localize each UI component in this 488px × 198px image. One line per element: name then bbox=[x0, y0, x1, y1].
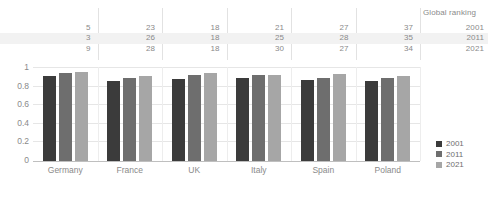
bar-spain-2021[interactable] bbox=[333, 74, 346, 161]
bar-italy-2001[interactable] bbox=[236, 78, 249, 161]
bar-group-italy bbox=[227, 67, 292, 161]
legend-label: 2011 bbox=[446, 150, 463, 159]
y-tick-label: 1 bbox=[7, 63, 33, 71]
bar-group-france bbox=[98, 67, 163, 161]
bar-group-bars bbox=[227, 67, 292, 161]
table-header-blank bbox=[162, 8, 227, 19]
legend-swatch-icon bbox=[436, 141, 442, 147]
bar-spain-2001[interactable] bbox=[301, 80, 314, 161]
global-ranking-table: Global ranking 5 23 18 21 27 37 2001 3 2… bbox=[0, 0, 488, 62]
rank-cell-germany: 5 bbox=[33, 23, 98, 34]
bar-poland-2001[interactable] bbox=[365, 81, 378, 161]
rank-cell-uk: 18 bbox=[162, 44, 227, 55]
legend-item-2021[interactable]: 2021 bbox=[436, 160, 486, 169]
rank-cell-france: 23 bbox=[98, 23, 163, 34]
rank-cell-italy: 25 bbox=[227, 33, 292, 44]
rank-cell-poland: 35 bbox=[356, 33, 421, 44]
table-header-blank bbox=[356, 8, 421, 19]
bar-group-bars bbox=[33, 67, 98, 161]
y-tick-label: 0 bbox=[7, 156, 33, 164]
table-spacer bbox=[0, 33, 33, 44]
y-tick-label: 0.4 bbox=[7, 119, 33, 127]
x-axis: Germany France UK Italy Spain Poland bbox=[33, 164, 420, 178]
legend-item-2001[interactable]: 2001 bbox=[436, 139, 486, 148]
bar-italy-2021[interactable] bbox=[268, 75, 281, 161]
x-tick-label-uk: UK bbox=[162, 164, 227, 178]
table-header-blank bbox=[98, 8, 163, 19]
bar-poland-2021[interactable] bbox=[397, 76, 410, 161]
x-tick-label-france: France bbox=[98, 164, 163, 178]
legend-label: 2021 bbox=[446, 160, 464, 169]
bar-uk-2001[interactable] bbox=[172, 79, 185, 161]
bar-uk-2011[interactable] bbox=[188, 75, 201, 161]
rank-cell-france: 26 bbox=[98, 33, 163, 44]
bar-italy-2011[interactable] bbox=[252, 75, 265, 161]
rank-cell-spain: 27 bbox=[291, 23, 356, 34]
group-separator bbox=[420, 67, 421, 161]
legend-label: 2001 bbox=[446, 139, 464, 148]
bar-france-2011[interactable] bbox=[123, 78, 136, 161]
x-tick-label-germany: Germany bbox=[33, 164, 98, 178]
table-header-blank bbox=[33, 8, 98, 19]
rank-cell-uk: 18 bbox=[162, 33, 227, 44]
rank-cell-poland: 37 bbox=[356, 23, 421, 34]
bar-group-bars bbox=[291, 67, 356, 161]
rank-cell-germany: 9 bbox=[33, 44, 98, 55]
rank-cell-spain: 27 bbox=[291, 44, 356, 55]
rank-cell-uk: 18 bbox=[162, 23, 227, 34]
y-tick-label: 0.8 bbox=[7, 82, 33, 90]
rank-row-label: 2021 bbox=[420, 44, 488, 55]
table-row: 9 28 18 30 27 34 2021 bbox=[0, 44, 488, 55]
x-tick-label-spain: Spain bbox=[291, 164, 356, 178]
table-row: 5 23 18 21 27 37 2001 bbox=[0, 23, 488, 34]
rank-row-label: 2001 bbox=[420, 23, 488, 34]
bar-germany-2011[interactable] bbox=[59, 73, 72, 161]
legend-swatch-icon bbox=[436, 162, 442, 168]
x-tick-label-poland: Poland bbox=[356, 164, 421, 178]
x-axis-baseline bbox=[33, 161, 420, 162]
plot-area bbox=[33, 67, 420, 162]
table-spacer bbox=[0, 44, 33, 55]
rank-row-label: 2011 bbox=[420, 33, 488, 44]
bar-group-bars bbox=[356, 67, 421, 161]
legend-item-2011[interactable]: 2011 bbox=[436, 150, 486, 159]
rank-cell-italy: 21 bbox=[227, 23, 292, 34]
table-header-title: Global ranking bbox=[420, 8, 488, 19]
rank-cell-germany: 3 bbox=[33, 33, 98, 44]
rank-cell-poland: 34 bbox=[356, 44, 421, 55]
chart-legend: 2001 2011 2021 bbox=[436, 139, 486, 171]
table-row: 3 26 18 25 28 35 2011 bbox=[0, 33, 488, 44]
x-tick-label-italy: Italy bbox=[227, 164, 292, 178]
bar-poland-2011[interactable] bbox=[381, 78, 394, 161]
table-header-row: Global ranking bbox=[0, 8, 488, 19]
y-tick-label: 0.2 bbox=[7, 137, 33, 145]
bar-france-2001[interactable] bbox=[107, 81, 120, 161]
bar-germany-2001[interactable] bbox=[43, 76, 56, 161]
y-tick-label: 0.6 bbox=[7, 100, 33, 108]
rank-cell-france: 28 bbox=[98, 44, 163, 55]
table-header-blank bbox=[227, 8, 292, 19]
bar-group-uk bbox=[162, 67, 227, 161]
table-header-blank bbox=[291, 8, 356, 19]
rank-cell-spain: 28 bbox=[291, 33, 356, 44]
rank-cell-italy: 30 bbox=[227, 44, 292, 55]
bar-france-2021[interactable] bbox=[139, 76, 152, 161]
y-axis: 1 0.8 0.6 0.4 0.2 0 bbox=[0, 67, 33, 162]
bar-group-spain bbox=[291, 67, 356, 161]
bar-group-poland bbox=[356, 67, 421, 161]
table-spacer bbox=[0, 8, 33, 19]
chart-figure: Global ranking 5 23 18 21 27 37 2001 3 2… bbox=[0, 0, 488, 198]
bar-group-bars bbox=[98, 67, 163, 161]
bar-group-bars bbox=[162, 67, 227, 161]
bar-uk-2021[interactable] bbox=[204, 73, 217, 161]
bar-group-germany bbox=[33, 67, 98, 161]
bar-spain-2011[interactable] bbox=[317, 78, 330, 161]
legend-swatch-icon bbox=[436, 151, 442, 157]
table-spacer bbox=[0, 23, 33, 34]
bar-germany-2021[interactable] bbox=[75, 72, 88, 161]
